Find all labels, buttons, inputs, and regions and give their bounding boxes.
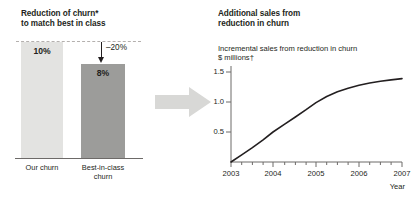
bar-our-churn-value: 10% (21, 46, 63, 56)
bar-our-churn (21, 42, 63, 158)
delta-arrow-head-icon (98, 57, 104, 63)
bar-best-in-class-churn-value: 8% (81, 68, 125, 78)
bar-label-our-churn: Our churn (13, 163, 71, 172)
xaxis-title: Year (390, 182, 405, 191)
xtick-label-2007: 2007 (387, 169, 411, 178)
delta-annotation-label: –20% (106, 43, 127, 52)
xtick-label-2003: 2003 (216, 169, 246, 178)
bar-label-best-in-class-churn: Best-in-class churn (76, 163, 130, 181)
xtick-label-2004: 2004 (258, 169, 288, 178)
bar-chart-baseline (15, 158, 143, 159)
bar-best-in-class-churn (81, 64, 125, 158)
sales-curve-smooth (231, 79, 402, 162)
left-panel: Reduction of churn* to match best in cla… (0, 0, 200, 203)
ytick-label-1-5: 1.5 (206, 67, 224, 76)
xtick-label-2005: 2005 (301, 169, 331, 178)
right-panel: Additional sales from reduction in churn… (200, 0, 411, 203)
ytick-label-0-5: 0.5 (206, 127, 224, 136)
xtick-label-2006: 2006 (344, 169, 374, 178)
ytick-label-1-0: 1.0 (206, 97, 224, 106)
